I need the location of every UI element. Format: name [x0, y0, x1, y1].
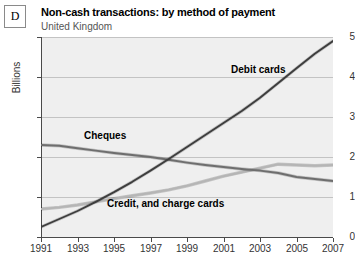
- y-axis-title: Billions: [11, 48, 22, 108]
- chart-title: Non-cash transactions: by method of paym…: [41, 6, 275, 18]
- x-tick-label: 1995: [94, 243, 134, 254]
- x-axis-line: [41, 237, 333, 238]
- x-tick-mark: [187, 238, 188, 242]
- x-tick-mark: [41, 238, 42, 242]
- x-tick-label: 1993: [58, 243, 98, 254]
- series-label-credit: Credit, and charge cards: [107, 198, 224, 209]
- x-tick-label: 1991: [21, 243, 61, 254]
- chart-subtitle: United Kingdom: [41, 21, 112, 32]
- x-tick-mark: [333, 238, 334, 242]
- x-tick-label: 2003: [240, 243, 280, 254]
- x-tick-label: 1999: [167, 243, 207, 254]
- series-label-debit: Debit cards: [231, 64, 285, 75]
- x-tick-mark: [78, 238, 79, 242]
- x-tick-mark: [224, 238, 225, 242]
- x-tick-mark: [114, 238, 115, 242]
- series-label-cheques: Cheques: [84, 130, 126, 141]
- x-tick-label: 2005: [277, 243, 317, 254]
- figure-letter: D: [11, 9, 20, 24]
- x-tick-label: 2007: [313, 243, 353, 254]
- x-tick-mark: [260, 238, 261, 242]
- x-tick-mark: [297, 238, 298, 242]
- x-tick-label: 2001: [204, 243, 244, 254]
- figure-root: D Non-cash transactions: by method of pa…: [0, 0, 355, 261]
- x-tick-mark: [151, 238, 152, 242]
- figure-letter-badge: D: [4, 5, 26, 28]
- x-tick-label: 1997: [131, 243, 171, 254]
